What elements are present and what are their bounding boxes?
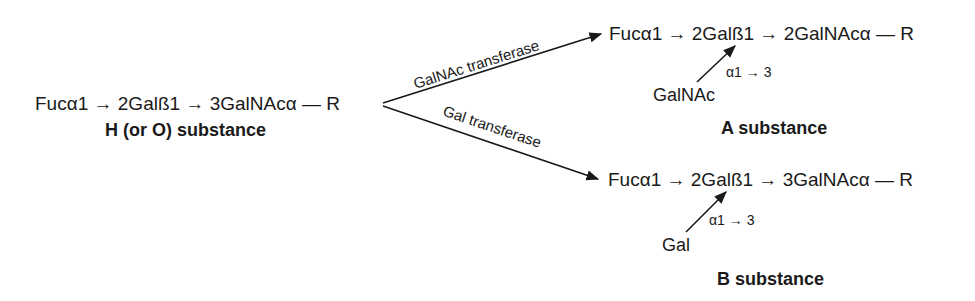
b-substance-chain: Fucα1 → 2Galß1 → 3GalNAcα — R xyxy=(608,170,913,189)
a-substance-label: A substance xyxy=(721,119,827,137)
a-linkage-label: α1 → 3 xyxy=(726,65,771,79)
b-linkage-label: α1 → 3 xyxy=(709,213,754,227)
a-substance-chain: Fucα1 → 2Galß1 → 2GalNAcα — R xyxy=(609,24,914,43)
b-substance-label: B substance xyxy=(717,270,824,288)
b-added-sugar: Gal xyxy=(662,236,690,254)
a-added-sugar: GalNAc xyxy=(653,86,715,104)
arrows-layer xyxy=(0,0,975,301)
h-substance-label: H (or O) substance xyxy=(105,121,266,139)
arrow-to-a-substance xyxy=(383,34,601,103)
h-substance-chain: Fucα1 → 2Galß1 → 3GalNAcα — R xyxy=(35,94,340,113)
